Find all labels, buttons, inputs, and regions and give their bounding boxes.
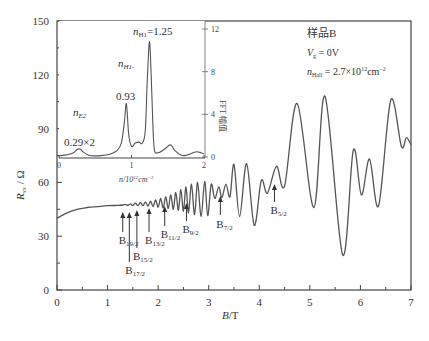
- landau-level-label: B15/2: [133, 250, 153, 264]
- landau-level-label: B17/2: [125, 264, 145, 278]
- inset-peak-label-0-93: 0.93: [116, 90, 136, 102]
- x-tick-label: 4: [257, 296, 263, 308]
- inset-x-label: n/1012cm−2: [119, 175, 154, 184]
- inset-x-tick-label: 1: [130, 161, 134, 170]
- inset-y-tick-label: 4: [211, 110, 215, 119]
- inset-x-tick-label: 0: [57, 161, 61, 170]
- inset-y-label: FFT 幅值: [218, 100, 228, 132]
- y-tick-label: 150: [33, 15, 50, 27]
- y-tick-label: 0: [44, 284, 50, 296]
- landau-level-label: B7/2: [216, 218, 233, 232]
- x-tick-label: 0: [54, 296, 60, 308]
- x-tick-label: 7: [408, 296, 414, 308]
- inset-y-tick-label: 0: [211, 153, 215, 162]
- landau-level-label: B9/2: [182, 223, 199, 237]
- y-tick-label: 90: [38, 123, 50, 135]
- inset-peak-label-0-29: 0.29×2: [64, 136, 95, 148]
- chart-figure: 012345670306090120150 01204812 0.29×2 nE…: [0, 0, 429, 341]
- landau-level-label: B5/2: [270, 204, 287, 218]
- landau-level-label: B11/2: [161, 228, 181, 242]
- x-axis-label: B/T: [222, 309, 239, 321]
- legend-sample: 样品B: [307, 26, 336, 39]
- legend-nhall: nHall = 2.7×1012cm−2: [307, 66, 386, 78]
- y-tick-label: 30: [38, 230, 50, 242]
- x-tick-label: 3: [206, 296, 212, 308]
- x-tick-label: 2: [155, 296, 161, 308]
- x-tick-label: 6: [358, 296, 364, 308]
- x-tick-label: 1: [105, 296, 111, 308]
- y-tick-label: 120: [33, 69, 50, 81]
- inset-x-tick-label: 2: [202, 161, 206, 170]
- y-axis-label: Rxx / Ω: [14, 170, 28, 201]
- y-tick-label: 60: [38, 176, 50, 188]
- inset-y-tick-label: 12: [211, 25, 219, 34]
- legend-vg: Vg = 0V: [307, 47, 340, 59]
- inset-y-tick-label: 8: [211, 68, 215, 77]
- x-tick-label: 5: [307, 296, 313, 308]
